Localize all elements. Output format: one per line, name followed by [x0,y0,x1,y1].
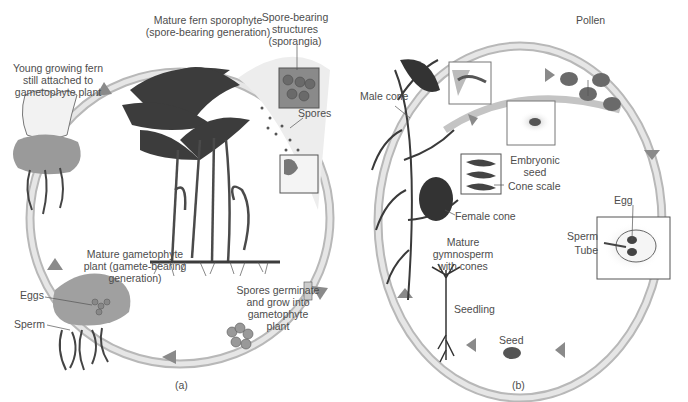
arrow-head-icon [397,288,413,298]
seed-icon [503,347,521,359]
label-embryonic-seed: Embryonic seed [505,154,565,178]
label-young-fern: Young growing fern still attached to gam… [6,62,110,98]
arrow-head-icon [47,258,63,270]
label-cone-scale: Cone scale [508,180,561,192]
label-sperm-fern: Sperm [14,318,45,330]
young-fern [13,90,81,214]
label-sporangia: Spore-bearing structures (sporangia) [250,11,340,47]
label-seedling: Seedling [454,303,495,315]
panel-label-b: (b) [512,379,525,391]
male-cone [400,59,440,92]
label-tube: Tube [560,244,598,256]
label-male-cone: Male cone [360,90,408,102]
label-mature-gymnosperm: Mature gymnosperm with cones [418,236,508,272]
arrow-head-icon [545,68,555,82]
arrow-head-icon [555,342,565,358]
label-sperm-gymnosperm: Sperm [560,230,598,242]
label-gametophyte: Mature gametophyte plant (gamete-bearing… [80,248,190,284]
label-eggs: Eggs [20,289,44,301]
arrow-head-icon [644,150,660,160]
female-cone [419,177,453,221]
arrow-head-icon [466,338,476,352]
label-egg: Egg [614,194,633,206]
life-cycle-artwork [0,0,688,402]
label-seed: Seed [499,334,524,346]
label-female-cone: Female cone [455,210,516,222]
label-spores: Spores [298,107,331,119]
label-pollen: Pollen [576,14,605,26]
panel-label-a: (a) [175,379,188,391]
label-spores-germinate: Spores germinate and grow into gametophy… [228,284,328,332]
